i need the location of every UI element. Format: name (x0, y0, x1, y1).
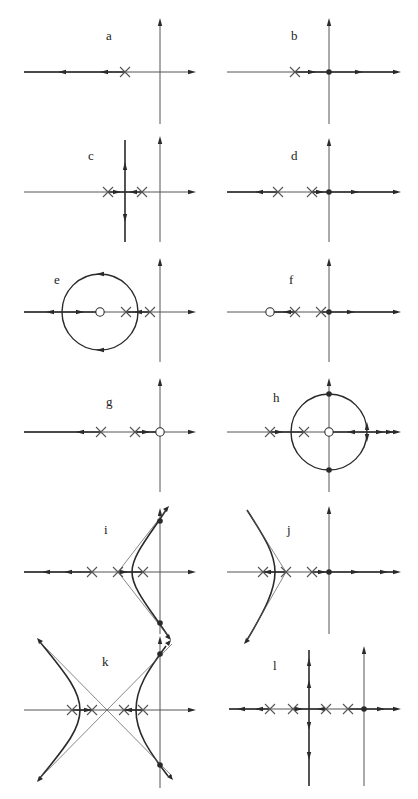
asymptote-line (247, 572, 286, 640)
locus-direction-arrow-icon (318, 570, 326, 574)
root-locus-panel-g: g (0, 380, 209, 530)
locus-direction-arrow-icon (255, 190, 263, 194)
locus-branches (229, 650, 397, 786)
axes (227, 258, 401, 362)
locus-direction-arrow-icon (100, 70, 108, 74)
locus-branches (244, 510, 397, 644)
real-axis-arrow-icon (188, 70, 196, 74)
root-locus-panel-f: f (209, 250, 418, 400)
crossing-point-dot-icon (326, 467, 332, 473)
locus-branches (24, 70, 125, 74)
panel-label: l (273, 658, 277, 673)
real-axis-arrow-icon (188, 430, 196, 434)
crossing-point-dot-icon (157, 620, 163, 626)
locus-direction-arrow-icon (275, 430, 283, 434)
locus-direction-arrow-icon (255, 707, 263, 711)
zero-circle-icon (96, 308, 104, 316)
imaginary-axis-arrow-icon (158, 136, 162, 144)
locus-direction-arrow-icon (307, 658, 311, 666)
panel-label: e (54, 272, 60, 287)
root-locus-panel-k: k (0, 640, 209, 790)
axes (227, 18, 401, 124)
crossing-point-dot-icon (326, 569, 332, 575)
crossing-point-dot-icon (326, 391, 332, 397)
locus-curve (247, 510, 275, 640)
locus-direction-arrow-icon (347, 430, 355, 434)
root-locus-panel-j: j (209, 510, 418, 660)
locus-direction-arrow-icon (76, 430, 84, 434)
locus-direction-arrow-icon (386, 430, 394, 434)
locus-curve (132, 510, 168, 636)
zero-circle-icon (156, 428, 164, 436)
imaginary-axis-arrow-icon (327, 138, 331, 146)
locus-direction-arrow-icon (37, 776, 43, 782)
locus-direction-arrow-icon (380, 570, 388, 574)
crossing-point-dot-icon (157, 651, 163, 657)
imaginary-axis-arrow-icon (158, 258, 162, 266)
asymptote-line (247, 510, 286, 572)
panel-label: f (289, 272, 294, 287)
locus-direction-arrow-icon (58, 70, 66, 74)
locus-direction-arrow-icon (129, 190, 137, 194)
locus-direction-arrow-icon (355, 70, 363, 74)
root-locus-panel-e: e (0, 250, 209, 400)
real-axis-arrow-icon (188, 310, 196, 314)
locus-direction-arrow-icon (46, 310, 54, 314)
imaginary-axis-arrow-icon (158, 18, 162, 26)
locus-direction-arrow-icon (351, 190, 359, 194)
panel-label: d (291, 148, 298, 163)
crossing-point-dot-icon (326, 189, 332, 195)
locus-direction-arrow-icon (42, 570, 50, 574)
axes (24, 258, 196, 362)
panel-label: j (286, 522, 291, 537)
locus-direction-arrow-icon (142, 430, 150, 434)
root-locus-panel-h: h (209, 380, 418, 530)
locus-direction-arrow-icon (64, 570, 72, 574)
locus-direction-arrow-icon (76, 310, 84, 314)
real-axis-arrow-icon (188, 708, 196, 712)
axes (229, 646, 401, 786)
locus-direction-arrow-icon (307, 680, 311, 688)
locus-direction-arrow-icon (347, 310, 355, 314)
panel-label: h (273, 390, 280, 405)
locus-direction-arrow-icon (316, 190, 324, 194)
imaginary-axis-arrow-icon (158, 508, 162, 516)
panel-label: a (106, 28, 112, 43)
crossing-point-dot-icon (326, 69, 332, 75)
zero-circle-icon (266, 308, 274, 316)
locus-direction-arrow-icon (96, 272, 104, 276)
zero-circle-icon (325, 428, 333, 436)
crossing-point-dot-icon (361, 706, 367, 712)
locus-branches (24, 430, 160, 434)
locus-direction-arrow-icon (307, 722, 311, 730)
locus-direction-arrow-icon (123, 162, 127, 170)
imaginary-axis-arrow-icon (158, 378, 162, 386)
panel-label: k (102, 654, 109, 669)
locus-direction-arrow-icon (113, 190, 121, 194)
imaginary-axis-arrow-icon (362, 646, 366, 654)
real-axis-arrow-icon (188, 570, 196, 574)
locus-direction-arrow-icon (308, 70, 316, 74)
locus-direction-arrow-icon (96, 348, 104, 352)
root-locus-panel-l: l (209, 640, 418, 790)
locus-branches (24, 506, 171, 640)
locus-direction-arrow-icon (351, 570, 359, 574)
locus-branches (108, 140, 142, 242)
root-locus-figure: abcdefghijkl (0, 0, 418, 799)
crossing-point-dot-icon (157, 518, 163, 524)
locus-direction-arrow-icon (165, 640, 171, 646)
axes (24, 136, 196, 242)
locus-branches (24, 272, 150, 352)
imaginary-axis-arrow-icon (327, 18, 331, 26)
root-locus-panel-b: b (209, 0, 418, 150)
locus-direction-arrow-icon (295, 707, 303, 711)
locus-branches (270, 310, 397, 314)
imaginary-axis-arrow-icon (327, 258, 331, 266)
locus-direction-arrow-icon (307, 752, 311, 760)
locus-branches (295, 70, 397, 74)
locus-direction-arrow-icon (123, 214, 127, 222)
locus-direction-arrow-icon (376, 430, 384, 434)
root-locus-panel-i: i (0, 510, 209, 660)
locus-curve (136, 646, 168, 776)
real-axis-arrow-icon (188, 190, 196, 194)
